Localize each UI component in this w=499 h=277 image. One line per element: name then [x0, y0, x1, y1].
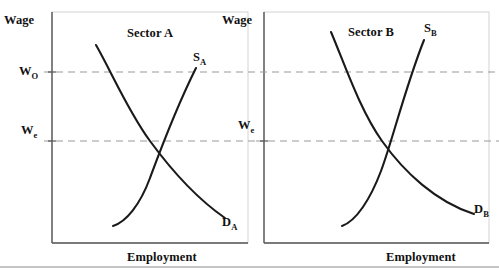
y-tick-label-wo: WO	[19, 65, 38, 80]
panel-sector-b	[264, 12, 489, 243]
y-axis-label-sector-a: Wage	[4, 14, 34, 27]
y-tick-label-we-b: We	[238, 119, 254, 134]
y-tick-label-wo-subscript: O	[32, 71, 39, 81]
supply-demand-figure: Wage Sector A SA DA WO We Employment Wag…	[0, 0, 499, 277]
demand-curve-label-b: DB	[474, 203, 489, 218]
demand-curve-label-b-base: D	[474, 202, 483, 216]
plot-frame-a	[52, 12, 248, 243]
demand-curve-label-a-subscript: A	[231, 222, 237, 232]
x-axis-label-sector-a: Employment	[127, 251, 197, 264]
supply-curve-label-a-subscript: A	[200, 57, 206, 67]
plot-frame-b	[264, 12, 489, 243]
supply-curve-label-b-subscript: B	[431, 28, 437, 38]
x-axis-label-sector-b: Employment	[386, 251, 456, 264]
panel-sector-a	[52, 12, 248, 243]
diagram-canvas	[0, 0, 499, 277]
demand-curve-label-b-subscript: B	[483, 209, 489, 219]
demand-curve-label-a-base: D	[222, 215, 231, 229]
demand-curve-b	[331, 32, 474, 214]
panel-title-sector-a: Sector A	[127, 27, 173, 40]
y-axis-label-sector-b: Wage	[222, 14, 252, 27]
supply-curve-label-b: SB	[424, 22, 437, 37]
panel-title-sector-b: Sector B	[348, 26, 394, 39]
y-tick-label-wo-base: W	[19, 64, 32, 78]
y-tick-label-we-b-base: W	[238, 118, 251, 132]
supply-curve-label-a-base: S	[193, 50, 200, 64]
demand-curve-label-a: DA	[222, 216, 237, 231]
supply-curve-label-b-base: S	[424, 21, 431, 35]
y-tick-label-we-b-subscript: e	[251, 125, 255, 135]
supply-curve-label-a: SA	[193, 51, 206, 66]
supply-curve-b	[342, 40, 424, 226]
y-tick-label-we-a-base: W	[21, 123, 34, 137]
y-tick-label-we-a: We	[21, 124, 37, 139]
y-tick-label-we-a-subscript: e	[34, 130, 38, 140]
demand-curve-a	[96, 45, 225, 218]
